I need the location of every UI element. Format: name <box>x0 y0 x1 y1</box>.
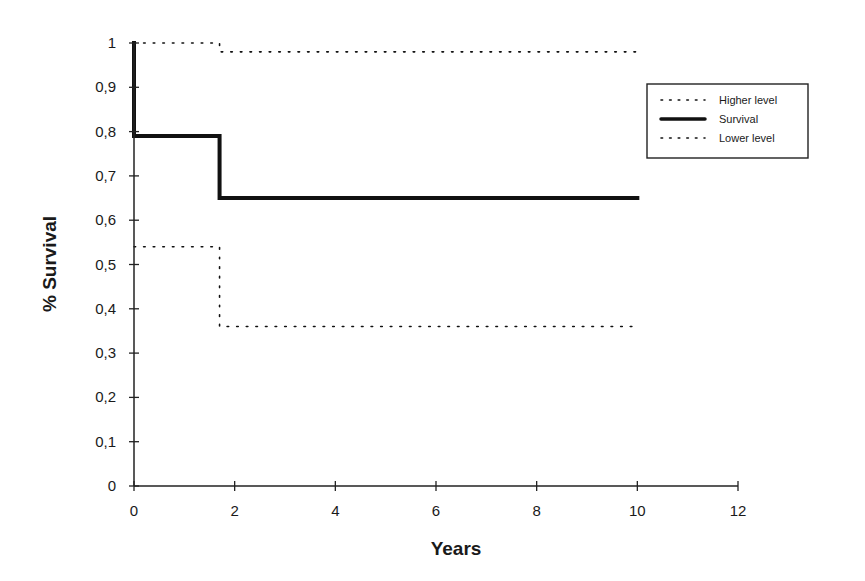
series-lower-level <box>134 247 637 327</box>
y-tick-label: 0,6 <box>95 211 116 228</box>
y-tick-label: 0,3 <box>95 344 116 361</box>
legend-label: Higher level <box>719 94 777 106</box>
y-tick-label: 1 <box>108 34 116 51</box>
survival-chart: 02468101200,10,20,30,40,50,60,70,80,91 Y… <box>0 0 865 581</box>
y-tick-label: 0,2 <box>95 388 116 405</box>
y-tick-label: 0 <box>108 477 116 494</box>
x-axis-title: Years <box>431 538 482 559</box>
x-tick-label: 4 <box>331 502 339 519</box>
series-survival <box>134 43 637 198</box>
legend-label: Survival <box>719 113 758 125</box>
legend-label: Lower level <box>719 132 775 144</box>
y-tick-label: 0,1 <box>95 433 116 450</box>
y-tick-label: 0,7 <box>95 167 116 184</box>
x-tick-label: 2 <box>230 502 238 519</box>
series-higher-level <box>134 43 637 52</box>
x-tick-label: 6 <box>432 502 440 519</box>
x-tick-label: 0 <box>130 502 138 519</box>
legend: Higher levelSurvivalLower level <box>647 84 808 158</box>
y-tick-label: 0,8 <box>95 123 116 140</box>
x-tick-label: 12 <box>730 502 747 519</box>
y-tick-label: 0,9 <box>95 78 116 95</box>
y-tick-label: 0,4 <box>95 300 116 317</box>
plot-area <box>134 43 637 327</box>
y-tick-label: 0,5 <box>95 256 116 273</box>
y-axis-title: % Survival <box>39 216 60 312</box>
x-tick-label: 8 <box>532 502 540 519</box>
x-tick-label: 10 <box>629 502 646 519</box>
